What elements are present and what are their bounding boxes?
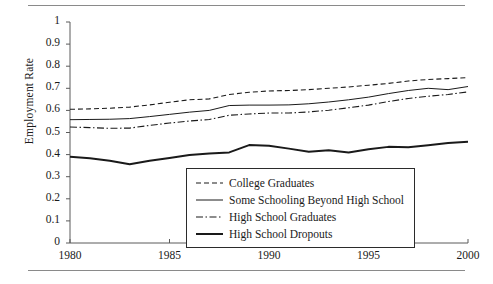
chart-legend: College GraduatesSome Schooling Beyond H… (186, 168, 415, 248)
data-series (70, 78, 468, 165)
legend-line-swatch-dash-dot (195, 211, 225, 223)
legend-item[interactable]: High School Graduates (195, 208, 404, 225)
legend-item[interactable]: College Graduates (195, 174, 404, 191)
legend-item-label: College Graduates (225, 177, 314, 189)
series-line-some-schooling-beyond-high-school (70, 87, 468, 120)
series-line-high-school-dropouts (70, 142, 468, 165)
legend-line-swatch-solid-thick (195, 228, 225, 240)
series-line-college-graduates (70, 78, 468, 110)
figure-container: Employment Rate 00.10.20.30.40.50.60.70.… (0, 0, 493, 284)
legend-line-swatch-solid-thin (195, 194, 225, 206)
legend-item[interactable]: Some Schooling Beyond High School (195, 191, 404, 208)
legend-item[interactable]: High School Dropouts (195, 225, 404, 242)
legend-line-swatch-dashed (195, 177, 225, 189)
legend-item-label: Some Schooling Beyond High School (225, 194, 404, 206)
series-line-high-school-graduates (70, 92, 468, 128)
legend-item-label: High School Graduates (225, 211, 336, 223)
legend-item-label: High School Dropouts (225, 228, 333, 240)
